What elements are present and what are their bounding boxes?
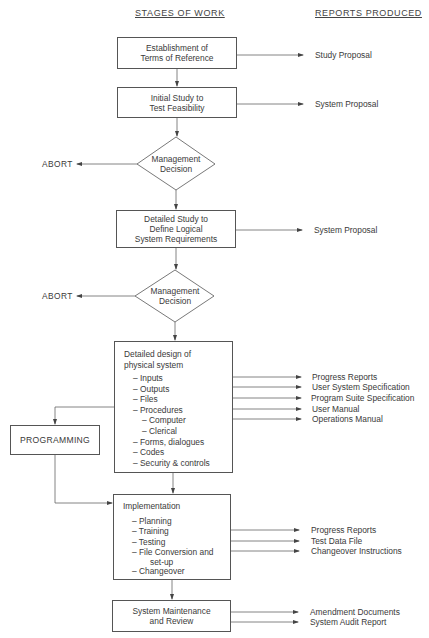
- report-user-manual: User Manual: [312, 404, 359, 414]
- stage-maintenance: System Maintenance and Review: [112, 600, 231, 632]
- report-amendment-documents: Amendment Documents: [310, 607, 400, 617]
- stage-initial-study: Initial Study to Test Feasibility: [117, 87, 237, 118]
- design-sub-item: – Clerical: [133, 426, 232, 437]
- design-item: – Codes: [133, 447, 232, 458]
- stage-text: Define Logical: [149, 224, 202, 234]
- design-item: – Security & controls: [133, 458, 232, 469]
- stage-text: and Review: [150, 616, 194, 626]
- design-item: – Files: [133, 394, 232, 405]
- design-item: – Procedures: [133, 405, 232, 416]
- design-item: – Forms, dialogues: [133, 437, 232, 448]
- implementation-item: – Planning: [132, 516, 230, 527]
- stage-title: Detailed design of: [124, 349, 232, 360]
- decision-1-label: Management Decision: [146, 155, 206, 174]
- stage-text: Establishment of: [146, 43, 208, 53]
- stages-of-work-header: STAGES OF WORK: [135, 8, 225, 18]
- report-changeover-instructions: Changeover Instructions: [311, 546, 402, 556]
- design-items-list: – Inputs – Outputs – Files – Procedures …: [124, 373, 232, 468]
- implementation-items-list: – Planning – Training – Testing – File C…: [123, 516, 230, 577]
- abort-label-2: ABORT: [42, 291, 73, 301]
- decision-2-label: Management Decision: [145, 287, 205, 306]
- stage-terms-of-reference: Establishment of Terms of Reference: [117, 37, 237, 69]
- stage-text: Initial Study to: [151, 93, 204, 103]
- report-system-audit-report: System Audit Report: [310, 617, 386, 627]
- to-programming-arrow: [55, 407, 114, 424]
- report-user-system-spec: User System Specification: [312, 382, 410, 392]
- design-item: – Inputs: [133, 373, 232, 384]
- stage-text: Terms of Reference: [140, 53, 213, 63]
- report-study-proposal: Study Proposal: [315, 50, 372, 60]
- report-progress-reports-2: Progress Reports: [311, 525, 376, 535]
- implementation-item: – Testing: [132, 537, 230, 548]
- stage-title: Implementation: [123, 501, 230, 512]
- reports-produced-header: REPORTS PRODUCED: [315, 8, 422, 18]
- stage-text: System Requirements: [135, 234, 217, 244]
- implementation-item: – Changeover: [132, 566, 230, 577]
- report-system-proposal-1: System Proposal: [315, 99, 378, 109]
- stage-title: physical system: [124, 360, 232, 371]
- design-item: – Outputs: [133, 384, 232, 395]
- abort-label-1: ABORT: [42, 159, 73, 169]
- programming-to-implementation-arrow: [55, 455, 112, 503]
- report-test-data-file: Test Data File: [311, 536, 362, 546]
- programming-label: PROGRAMMING: [20, 435, 90, 445]
- implementation-item: – File Conversion and: [132, 547, 230, 558]
- implementation-item: – Training: [132, 526, 230, 537]
- stage-detailed-study: Detailed Study to Define Logical System …: [116, 210, 236, 248]
- stage-detailed-design: Detailed design of physical system – Inp…: [114, 341, 233, 473]
- decision-text: Decision: [145, 297, 205, 307]
- stage-text: System Maintenance: [132, 606, 210, 616]
- implementation-item-continued: set-up: [132, 558, 230, 567]
- design-sub-item: – Computer: [133, 415, 232, 426]
- stage-text: Detailed Study to: [144, 214, 208, 224]
- report-operations-manual: Operations Manual: [312, 414, 383, 424]
- report-system-proposal-2: System Proposal: [314, 225, 377, 235]
- stage-implementation: Implementation – Planning – Training – T…: [113, 494, 231, 580]
- report-progress-reports: Progress Reports: [312, 372, 377, 382]
- decision-text: Decision: [146, 165, 206, 175]
- stage-programming: PROGRAMMING: [10, 425, 100, 455]
- stage-text: Test Feasibility: [150, 103, 205, 113]
- report-program-suite-spec: Program Suite Specification: [311, 393, 414, 403]
